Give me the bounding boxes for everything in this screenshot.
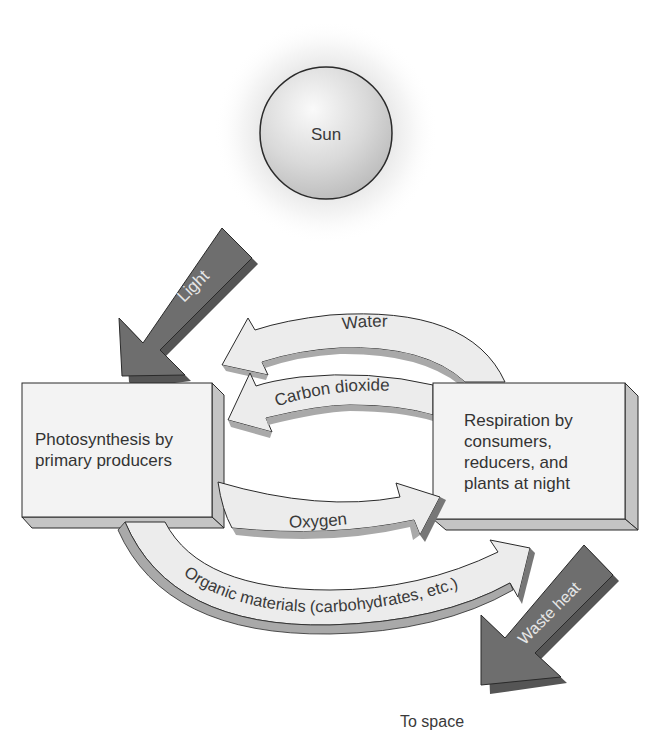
photosynthesis-text: Photosynthesis by primary producers [35, 429, 173, 471]
respiration-line-3: reducers, and [464, 452, 573, 473]
photosynthesis-line-2: primary producers [35, 450, 173, 471]
respiration-text: Respiration by consumers, reducers, and … [464, 410, 573, 494]
respiration-line-4: plants at night [464, 473, 573, 494]
organic-materials-arrow [118, 522, 535, 634]
photosynthesis-line-1: Photosynthesis by [35, 429, 173, 450]
respiration-line-2: consumers, [464, 431, 573, 452]
energy-flow-diagram: Sun Light Water Carbon dioxide Oxygen Or… [0, 0, 660, 747]
to-space-label: To space [400, 713, 464, 730]
sun-label: Sun [311, 125, 341, 144]
respiration-line-1: Respiration by [464, 410, 573, 431]
oxygen-label: Oxygen [289, 509, 348, 531]
water-label: Water [341, 312, 388, 334]
